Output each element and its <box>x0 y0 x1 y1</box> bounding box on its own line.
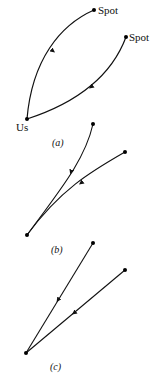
label-us: Us <box>16 121 28 133</box>
arrow-head-b2 <box>81 180 85 183</box>
diagram-canvas: Spot Spot Us (a) (b) (c) <box>0 0 166 373</box>
spot1-dot <box>92 8 96 12</box>
b-dot-top1 <box>91 122 95 126</box>
panel-c: (c) <box>24 241 127 373</box>
panel-a: Spot Spot Us (a) <box>16 4 149 149</box>
c-dot-top1 <box>91 241 95 245</box>
path-spot2-to-us <box>27 37 126 119</box>
svg-text:Spot: Spot <box>98 4 118 16</box>
svg-text:(b): (b) <box>51 244 63 256</box>
svg-text:Spot: Spot <box>129 31 149 43</box>
label-spot1: Spot <box>98 4 118 16</box>
c-dot-origin <box>24 351 28 355</box>
svg-text:(c): (c) <box>50 361 62 373</box>
b-dot-origin <box>25 233 29 237</box>
svg-text:(a): (a) <box>52 137 64 149</box>
caption-c: (c) <box>50 361 62 373</box>
path-spot1-to-us <box>27 10 94 119</box>
svg-text:Us: Us <box>16 121 28 133</box>
line-c1 <box>26 243 93 353</box>
spot2-dot <box>124 35 128 39</box>
b-dot-top2 <box>123 150 127 154</box>
label-spot2: Spot <box>129 31 149 43</box>
caption-b: (b) <box>51 244 63 256</box>
panel-b: (b) <box>25 122 127 256</box>
c-dot-top2 <box>123 268 127 272</box>
line-c2 <box>26 270 125 353</box>
caption-a: (a) <box>52 137 64 149</box>
